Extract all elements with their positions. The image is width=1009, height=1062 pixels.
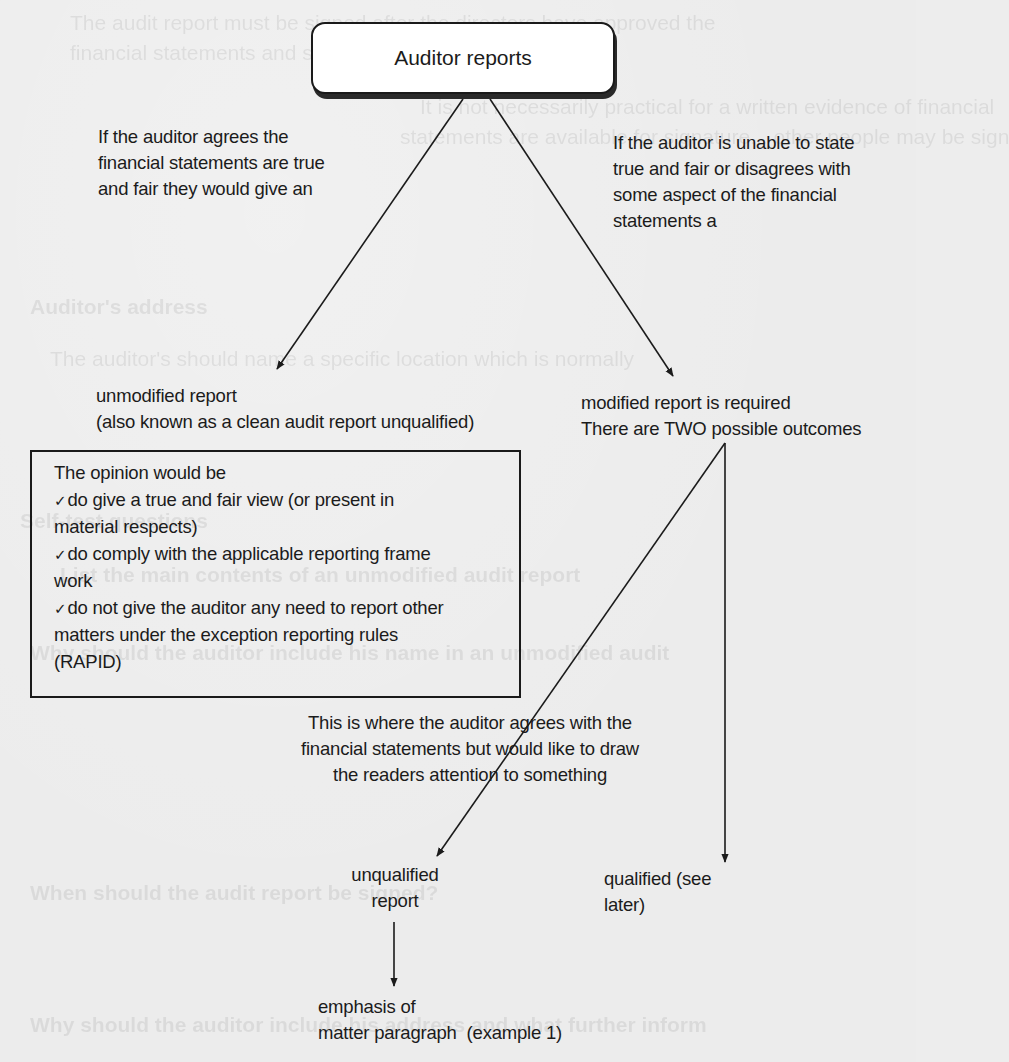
bleed-heading: Auditor's address <box>30 292 208 322</box>
emphasis-explanation-note: This is where the auditor agrees with th… <box>300 710 640 788</box>
bleed-text: It is not necessarily practical for a wr… <box>420 92 994 122</box>
qualified-report-node: qualified (see later) <box>604 866 711 918</box>
bleed-text: The auditor's should name a specific loc… <box>50 344 634 374</box>
opinion-box: The opinion would be ✓do give a true and… <box>30 450 521 698</box>
checkmark-icon: ✓ <box>54 546 66 563</box>
opinion-item: ✓do comply with the applicable reporting… <box>54 541 519 569</box>
modified-report-node: modified report is required There are TW… <box>581 390 861 442</box>
opinion-item: ✓do give a true and fair view (or presen… <box>54 487 519 515</box>
unmodified-report-node: unmodified report (also known as a clean… <box>96 383 474 435</box>
checkmark-icon: ✓ <box>54 600 66 617</box>
opinion-heading: The opinion would be <box>54 460 519 487</box>
left-condition-text: If the auditor agrees the financial stat… <box>98 124 325 202</box>
root-node-auditor-reports: Auditor reports <box>311 22 615 94</box>
unqualified-report-node: unqualified report <box>320 862 470 914</box>
opinion-item: ✓do not give the auditor any need to rep… <box>54 595 519 623</box>
checkmark-icon: ✓ <box>54 492 66 509</box>
right-condition-text: If the auditor is unable to state true a… <box>613 130 854 234</box>
emphasis-of-matter-node: emphasis of matter paragraph (example 1) <box>318 994 562 1046</box>
root-node-label: Auditor reports <box>394 46 532 70</box>
